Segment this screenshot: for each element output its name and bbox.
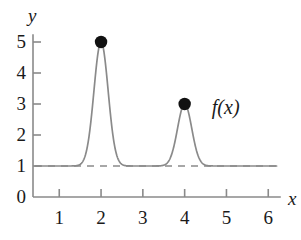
- x-tick-label: 4: [170, 208, 200, 227]
- function-curve-label: f(x): [212, 97, 240, 117]
- y-tick-label: 4: [2, 63, 26, 82]
- plot-canvas: [0, 0, 301, 240]
- y-tick-label: 5: [2, 32, 26, 51]
- function-curve: [35, 42, 277, 166]
- x-tick-label: 2: [86, 208, 116, 227]
- function-plot-figure: 123456 012345 y x f(x): [0, 0, 301, 240]
- x-tick-label: 3: [128, 208, 158, 227]
- axes-group: [33, 34, 281, 197]
- y-axis-label: y: [28, 6, 36, 25]
- y-tick-label: 1: [2, 156, 26, 175]
- x-axis-ticks: [59, 189, 268, 197]
- peak-marker-dot: [178, 98, 190, 110]
- y-tick-label: 0: [2, 187, 26, 206]
- x-axis-label: x: [288, 189, 296, 208]
- x-tick-label: 5: [211, 208, 241, 227]
- x-tick-label: 6: [253, 208, 283, 227]
- x-tick-label: 1: [44, 208, 74, 227]
- y-axis-ticks: [33, 42, 41, 166]
- peak-marker-dot: [95, 36, 107, 48]
- y-tick-label: 2: [2, 125, 26, 144]
- y-tick-label: 3: [2, 94, 26, 113]
